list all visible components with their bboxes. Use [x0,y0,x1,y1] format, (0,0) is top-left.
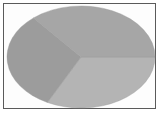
pie-chart [0,0,162,117]
